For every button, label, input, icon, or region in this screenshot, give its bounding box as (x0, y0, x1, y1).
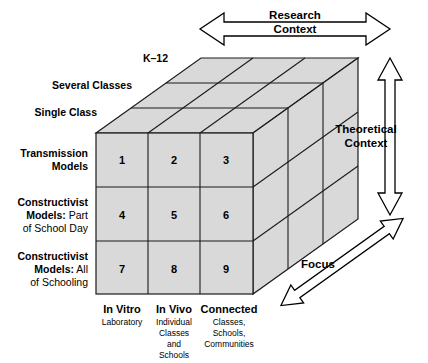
framework-cube-figure: 1 2 3 4 5 6 7 8 9 K–12 Several Classes S… (0, 0, 428, 363)
cell-number-6: 6 (223, 209, 229, 221)
cube-diagram: 1 2 3 4 5 6 7 8 9 K–12 Several Classes S… (0, 0, 428, 363)
row-label-constructivist-part-day: Constructivist Models: Part of School Da… (17, 196, 88, 234)
column-label-sub-4: Schools (159, 350, 189, 360)
row-label-regular-part: All (74, 263, 88, 275)
column-label-title: Connected (201, 303, 258, 315)
row-label-line-3: of Schooling (30, 276, 88, 288)
focus-label: Focus (301, 258, 335, 270)
row-label-regular-part: Part (66, 209, 88, 221)
cell-number-9: 9 (223, 263, 229, 275)
row-label-line-2: Models (52, 160, 88, 172)
cell-number-5: 5 (171, 209, 177, 221)
research-context-label-line-1: Research (269, 9, 321, 21)
row-label-bold-part: Models: (34, 263, 74, 275)
cell-number-4: 4 (119, 209, 126, 221)
cell-number-2: 2 (171, 154, 177, 166)
row-label-constructivist-all-schooling: Constructivist Models: All of Schooling (17, 250, 88, 288)
research-context-label-line-2: Context (274, 23, 317, 35)
depth-label-several-classes: Several Classes (52, 79, 132, 91)
row-label-line-2: Models: All (34, 263, 88, 275)
column-label-sub-3: and (167, 339, 181, 349)
column-label-connected: Connected Classes, Schools, Communities (201, 303, 258, 349)
theoretical-context-label-line-2: Context (345, 137, 388, 149)
column-label-sub-1: Classes, (213, 317, 246, 327)
row-label-transmission-models: Transmission Models (20, 147, 88, 172)
column-label-sub-1: Laboratory (102, 317, 143, 327)
row-label-line-2: Models: Part (26, 209, 88, 221)
column-label-in-vivo: In Vivo Individual Classes and Schools (156, 303, 192, 360)
cell-number-7: 7 (119, 263, 125, 275)
cell-number-3: 3 (223, 154, 229, 166)
row-label-bold-part: Models: (26, 209, 66, 221)
column-label-sub-2: Schools, (213, 328, 246, 338)
column-label-in-vitro: In Vitro Laboratory (102, 303, 143, 327)
column-label-title: In Vitro (103, 303, 141, 315)
cell-number-1: 1 (119, 154, 125, 166)
depth-label-k12: K–12 (143, 52, 168, 64)
row-label-line-1: Constructivist (17, 250, 88, 262)
column-label-sub-1: Individual (156, 317, 192, 327)
column-label-title: In Vivo (156, 303, 192, 315)
column-label-sub-2: Classes (159, 328, 189, 338)
column-label-sub-3: Communities (204, 339, 254, 349)
row-label-line-3: of School Day (23, 222, 89, 234)
theoretical-context-label-line-1: Theoretical (335, 123, 396, 135)
row-label-line-1: Transmission (20, 147, 88, 159)
row-label-line-1: Constructivist (17, 196, 88, 208)
depth-label-single-class: Single Class (35, 106, 98, 118)
cell-number-8: 8 (171, 263, 177, 275)
